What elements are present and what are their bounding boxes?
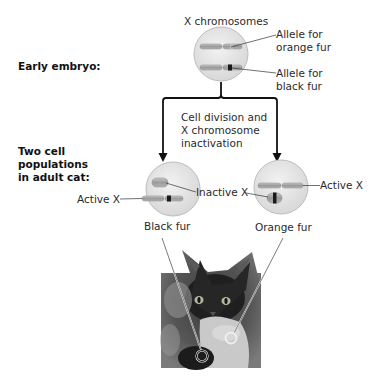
active-x-label-left: Active X bbox=[77, 193, 120, 206]
active-x-label-right: Active X bbox=[320, 179, 363, 192]
x-chromosome-black-allele bbox=[200, 65, 242, 71]
cell-black-fur bbox=[120, 162, 200, 216]
inactive-x-label: Inactive X bbox=[196, 186, 248, 199]
black-fur-caption: Black fur bbox=[144, 220, 190, 233]
orange-fur-caption: Orange fur bbox=[255, 221, 312, 234]
allele-black-label: Allele for black fur bbox=[276, 67, 323, 93]
allele-orange-label: Allele for orange fur bbox=[276, 28, 331, 54]
x-chromosomes-label: X chromosomes bbox=[184, 15, 268, 28]
arrow-head-left bbox=[159, 153, 168, 162]
embryo-cell bbox=[194, 27, 276, 81]
process-label: Cell division and X chromosome inactivat… bbox=[181, 111, 267, 150]
x-chromosome-orange-allele bbox=[200, 44, 242, 49]
adult-cat-label: Two cell populations in adult cat: bbox=[18, 145, 90, 184]
early-embryo-label: Early embryo: bbox=[18, 60, 101, 73]
cell-orange-fur bbox=[246, 160, 320, 214]
